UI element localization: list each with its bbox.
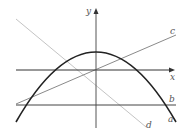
label-c: c xyxy=(170,26,175,36)
line-d xyxy=(16,19,146,127)
label-b: b xyxy=(169,94,175,104)
function-graph-diagram: y x c b a d xyxy=(0,0,184,134)
x-axis-label: x xyxy=(170,72,175,82)
y-axis-label: y xyxy=(85,6,92,16)
y-axis-arrow-icon xyxy=(94,8,99,14)
label-d: d xyxy=(146,120,152,130)
label-a: a xyxy=(168,114,173,124)
